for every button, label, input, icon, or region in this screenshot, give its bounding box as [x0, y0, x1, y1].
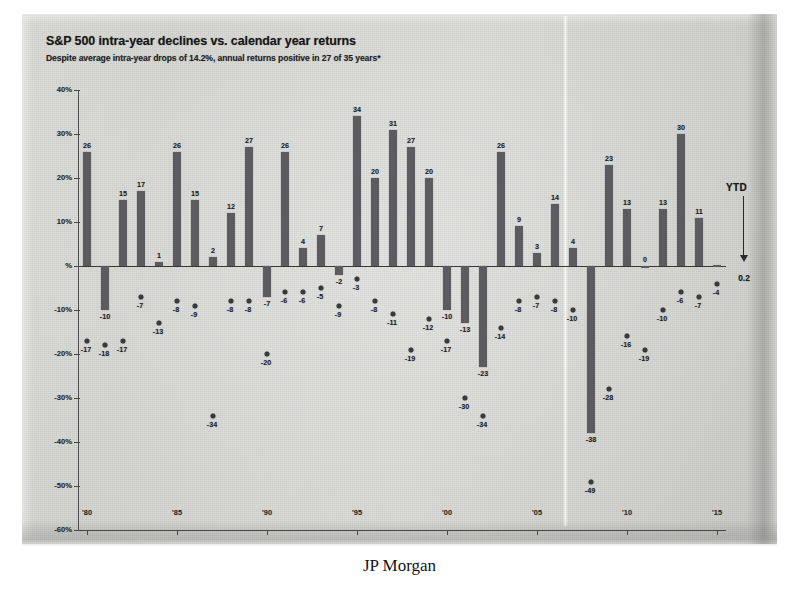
dot-value-label: -34: [207, 420, 217, 429]
dot-value-label: -6: [299, 296, 305, 305]
bar-value-label: 20: [425, 167, 433, 176]
bar-value-label: -23: [478, 369, 488, 378]
dot-intra-year-decline: [157, 321, 162, 326]
bar-annual-return: [317, 235, 325, 266]
bar-annual-return: [191, 200, 199, 266]
bar-annual-return: [677, 134, 685, 266]
dot-value-label: -19: [405, 354, 415, 363]
bar-value-label: -38: [586, 435, 596, 444]
dot-intra-year-decline: [715, 281, 720, 286]
bar-annual-return: [479, 266, 487, 367]
y-axis-label: %: [46, 261, 72, 270]
y-axis-tick: [74, 222, 80, 223]
bar-annual-return: [119, 200, 127, 266]
dot-intra-year-decline: [175, 299, 180, 304]
bar-value-label: 2: [211, 246, 215, 255]
dot-value-label: -12: [423, 323, 433, 332]
dot-value-label: -17: [441, 345, 451, 354]
y-axis-label: -30%: [46, 393, 72, 402]
x-axis-label: '00: [442, 508, 452, 517]
dot-intra-year-decline: [427, 316, 432, 321]
bar-value-label: -13: [460, 325, 470, 334]
x-axis-label: '85: [172, 508, 182, 517]
dot-value-label: -7: [533, 301, 539, 310]
bar-annual-return: [713, 265, 721, 267]
bar-annual-return: [137, 191, 145, 266]
y-axis-tick: [74, 530, 80, 531]
x-axis-label: '15: [712, 508, 722, 517]
x-axis-tick: [177, 530, 178, 535]
dot-intra-year-decline: [697, 294, 702, 299]
dot-value-label: -8: [551, 305, 557, 314]
dot-value-label: -8: [515, 305, 521, 314]
bar-annual-return: [227, 213, 235, 266]
y-axis-label: 40%: [46, 85, 72, 94]
bar-annual-return: [641, 266, 649, 268]
bar-annual-return: [443, 266, 451, 310]
bar-annual-return: [83, 152, 91, 266]
ytd-value-label: 0.2: [738, 273, 750, 283]
dot-intra-year-decline: [499, 325, 504, 330]
bar-value-label: 26: [497, 141, 505, 150]
dot-intra-year-decline: [139, 294, 144, 299]
bar-annual-return: [101, 266, 109, 310]
bar-value-label: 3: [535, 242, 539, 251]
dot-value-label: -17: [117, 345, 127, 354]
bar-value-label: 31: [389, 119, 397, 128]
dot-intra-year-decline: [625, 334, 630, 339]
bar-annual-return: [569, 248, 577, 266]
x-axis-tick: [447, 530, 448, 535]
bar-value-label: 4: [301, 237, 305, 246]
bar-value-label: 26: [83, 141, 91, 150]
bar-annual-return: [389, 130, 397, 266]
bar-annual-return: [353, 116, 361, 266]
dot-value-label: -34: [477, 420, 487, 429]
dot-value-label: -28: [603, 393, 613, 402]
dot-intra-year-decline: [571, 308, 576, 313]
dot-intra-year-decline: [247, 299, 252, 304]
dot-intra-year-decline: [193, 303, 198, 308]
bar-annual-return: [335, 266, 343, 275]
bar-value-label: 26: [173, 141, 181, 150]
dot-intra-year-decline: [481, 413, 486, 418]
dot-intra-year-decline: [319, 286, 324, 291]
y-axis-tick: [74, 354, 80, 355]
dot-intra-year-decline: [643, 347, 648, 352]
bar-value-label: 1: [157, 251, 161, 260]
bar-annual-return: [461, 266, 469, 323]
bar-value-label: 34: [353, 105, 361, 114]
bar-value-label: 9: [517, 215, 521, 224]
dot-intra-year-decline: [85, 338, 90, 343]
bar-value-label: 0: [643, 255, 647, 264]
dot-intra-year-decline: [121, 338, 126, 343]
bar-value-label: 15: [119, 189, 127, 198]
y-axis-label: 30%: [46, 129, 72, 138]
x-axis-tick: [87, 530, 88, 535]
dot-value-label: -10: [567, 314, 577, 323]
bar-value-label: 26: [281, 141, 289, 150]
chart-plot-area: 40%30%20%10%%-10%-20%-30%-40%-50%-60%'80…: [46, 84, 736, 534]
chart-subtitle: Despite average intra-year drops of 14.2…: [46, 53, 380, 63]
y-axis-label: -50%: [46, 481, 72, 490]
y-axis-label: -10%: [46, 305, 72, 314]
bar-annual-return: [371, 178, 379, 266]
y-axis-tick: [74, 266, 80, 267]
dot-intra-year-decline: [301, 290, 306, 295]
y-axis-label: 10%: [46, 217, 72, 226]
source-caption: JP Morgan: [0, 556, 799, 576]
bar-annual-return: [281, 152, 289, 266]
bar-annual-return: [659, 209, 667, 266]
dot-intra-year-decline: [103, 343, 108, 348]
y-axis-label: -20%: [46, 349, 72, 358]
bar-value-label: 4: [571, 237, 575, 246]
ytd-label: YTD: [726, 182, 747, 193]
dot-value-label: -13: [153, 327, 163, 336]
dot-intra-year-decline: [265, 352, 270, 357]
bar-value-label: 15: [191, 189, 199, 198]
bar-value-label: -2: [336, 277, 342, 286]
x-axis-tick: [357, 530, 358, 535]
dot-intra-year-decline: [661, 308, 666, 313]
dot-value-label: -30: [459, 402, 469, 411]
dot-intra-year-decline: [229, 299, 234, 304]
x-axis-line: [78, 530, 726, 531]
